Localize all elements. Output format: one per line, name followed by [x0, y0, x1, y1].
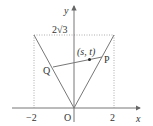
x-neg-label: −2 — [26, 112, 37, 123]
x-pos-label: 2 — [110, 112, 115, 123]
midpoint-dot — [88, 58, 91, 61]
y-axis-label: y — [63, 5, 69, 16]
segment-qp — [53, 57, 102, 67]
point-p-label: P — [104, 54, 110, 65]
x-axis-label: x — [135, 113, 141, 124]
line-left — [34, 35, 74, 108]
point-st-label: (s, t) — [77, 46, 96, 58]
point-q-label: Q — [43, 65, 51, 76]
y-top-label: 2√3 — [52, 24, 68, 35]
diagram-canvas: y x 2√3 −2 2 O Q P (s, t) — [0, 0, 153, 126]
diagram: y x 2√3 −2 2 O Q P (s, t) — [0, 0, 153, 126]
origin-label: O — [64, 112, 71, 123]
